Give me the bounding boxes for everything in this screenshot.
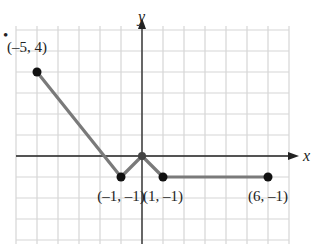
graph-point-origin bbox=[138, 152, 146, 160]
graph-point bbox=[33, 68, 42, 77]
x-axis-arrow-icon bbox=[288, 152, 299, 160]
function-graph: • x y (–5, 4)(–1, –1)(1, –1)(6, –1) bbox=[0, 0, 317, 244]
point-label: (1, –1) bbox=[143, 188, 183, 205]
point-label: (6, –1) bbox=[248, 188, 288, 205]
x-axis-label: x bbox=[302, 147, 310, 164]
point-labels: (–5, 4)(–1, –1)(1, –1)(6, –1) bbox=[7, 39, 288, 205]
graph-point bbox=[117, 173, 126, 182]
point-label: (–1, –1) bbox=[97, 188, 145, 205]
point-label: (–5, 4) bbox=[7, 39, 47, 56]
graph-point bbox=[264, 173, 273, 182]
graph-line bbox=[37, 72, 268, 177]
grid bbox=[16, 26, 289, 244]
graph-point bbox=[159, 173, 168, 182]
y-axis-label: y bbox=[136, 8, 146, 26]
